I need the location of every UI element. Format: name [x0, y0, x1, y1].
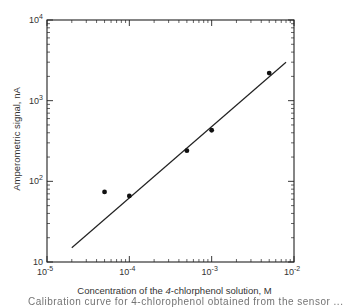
x-axis-ticks: 10-510-410-310-2: [37, 20, 300, 277]
x-axis-label: Concentration of the 4-chlorphenol solut…: [77, 285, 271, 296]
data-point: [102, 189, 107, 194]
x-tick-label: 10-2: [284, 265, 300, 277]
figure-caption-fragment: Calibration curve for 4-chlorophenol obt…: [28, 296, 343, 307]
data-point: [209, 128, 214, 133]
data-point: [127, 193, 132, 198]
y-tick-label: 103: [29, 94, 43, 106]
x-axis-title: Concentration of the 4-chlorphenol solut…: [77, 285, 271, 296]
y-axis-ticks: 10102103104: [29, 13, 294, 267]
plot-frame: [47, 20, 294, 262]
data-points: [102, 71, 271, 199]
x-tick-label: 10-4: [119, 265, 135, 277]
minor-ticks: [47, 20, 294, 262]
y-tick-label: 104: [29, 13, 43, 25]
x-tick-label: 10-3: [202, 265, 218, 277]
y-axis-label: Amperometric signal, nA: [11, 87, 22, 191]
plot-border: [47, 20, 294, 262]
y-tick-label: 10: [33, 257, 43, 267]
data-point: [267, 71, 272, 76]
fit-line: [72, 62, 286, 248]
y-axis-title: Amperometric signal, nA: [11, 87, 22, 191]
data-point: [184, 148, 189, 153]
regression-line: [72, 62, 286, 248]
y-tick-label: 102: [29, 174, 43, 186]
